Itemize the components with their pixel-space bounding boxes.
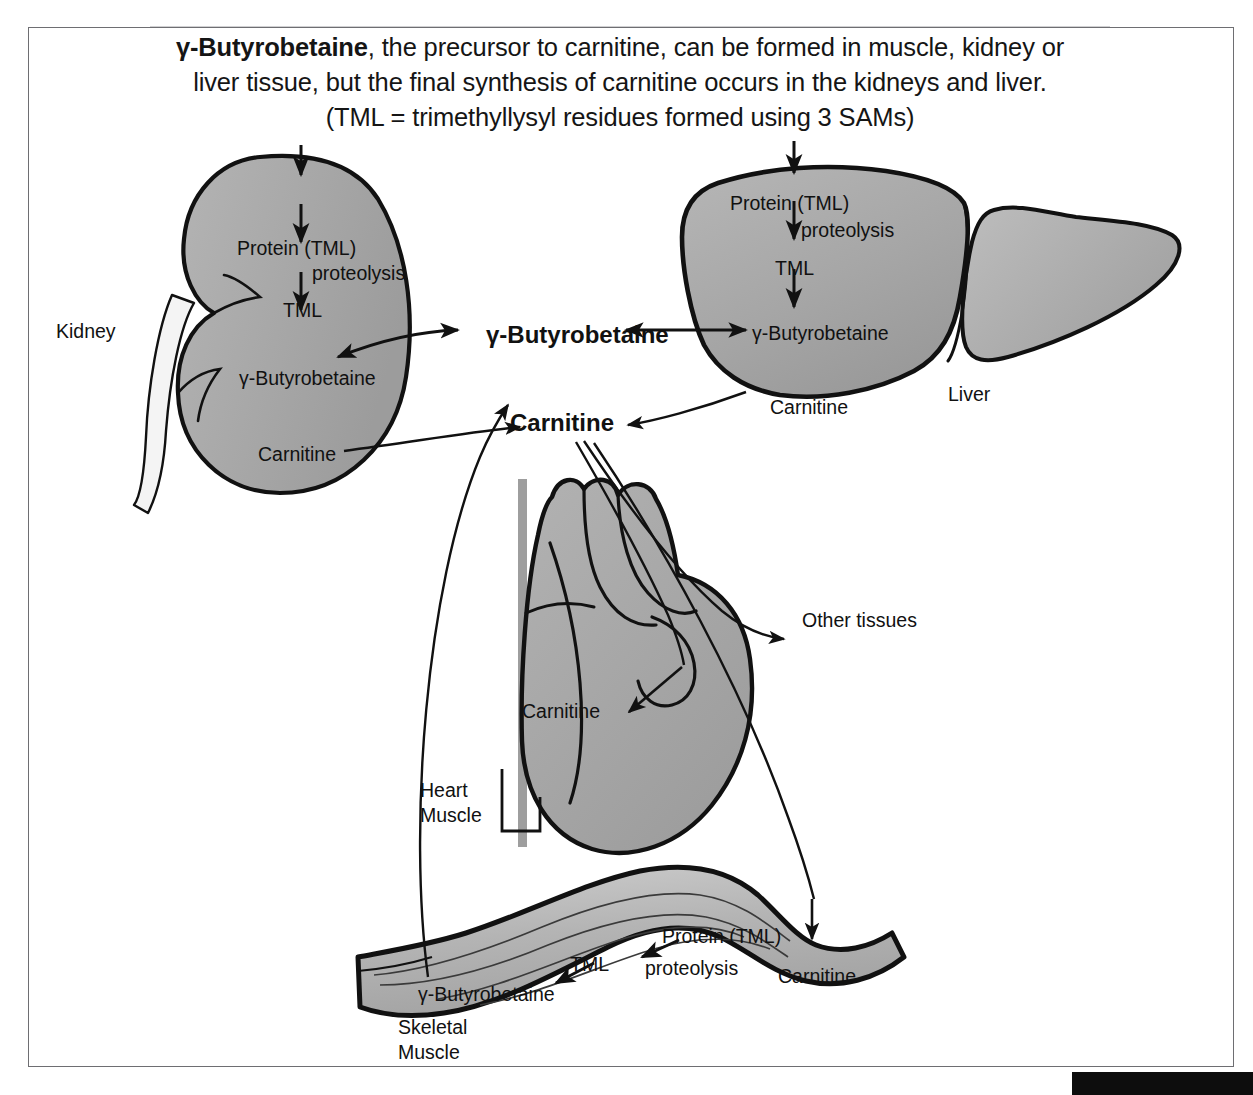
other-tissues-label: Other tissues (802, 609, 917, 631)
kidney-label-carnitine: Carnitine (258, 443, 336, 465)
central-label-carnitine: Carnitine (510, 412, 614, 434)
muscle-label-tml: TML (570, 953, 609, 975)
liver-label-butyrobetaine: γ-Butyrobetaine (752, 322, 889, 344)
figure-page: γ-Butyrobetaine, the precursor to carnit… (0, 0, 1253, 1095)
liver-label-carnitine: Carnitine (770, 396, 848, 418)
kidney-label-tml: TML (283, 299, 322, 321)
liver-right-lobe (962, 208, 1179, 361)
heart-organ-label: Heart Muscle (420, 778, 502, 828)
arrow-liver-carnitine-to-pool (628, 392, 746, 425)
kidney-label-proteolysis: proteolysis (312, 262, 405, 284)
liver-organ-label: Liver (948, 383, 990, 405)
kidney-organ-label: Kidney (56, 320, 116, 342)
skeletal-muscle-label-line1: Skeletal (398, 1016, 467, 1038)
skeletal-muscle-label-line2: Muscle (398, 1041, 460, 1063)
kidney-label-protein: Protein (TML) (237, 237, 356, 259)
muscle-label-proteolysis: proteolysis (645, 957, 738, 979)
heart-organ-label-line2: Muscle (420, 804, 482, 826)
pathway-diagram (28, 27, 1234, 1067)
muscle-label-butyrobetaine: γ-Butyrobetaine (418, 983, 555, 1005)
muscle-label-carnitine: Carnitine (778, 965, 856, 987)
muscle-label-protein: Protein (TML) (662, 925, 781, 947)
arrow-muscle-gbb-to-pool (420, 405, 508, 977)
kidney-label-butyrobetaine: γ-Butyrobetaine (239, 367, 376, 389)
liver-label-tml: TML (775, 257, 814, 279)
central-label-butyrobetaine: γ-Butyrobetaine (486, 324, 669, 346)
liver-label-protein: Protein (TML) (730, 192, 849, 214)
scan-artifact-bar (1072, 1072, 1253, 1095)
skeletal-muscle-organ-label: Skeletal Muscle (398, 1015, 498, 1065)
liver-label-proteolysis: proteolysis (801, 219, 894, 241)
heart-label-carnitine: Carnitine (522, 700, 600, 722)
heart-body (522, 480, 752, 853)
heart-organ-label-line1: Heart (420, 779, 468, 801)
